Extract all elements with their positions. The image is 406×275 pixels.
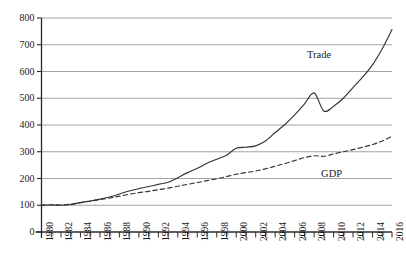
- x-tick-label: 2008: [318, 222, 328, 241]
- x-tick-label: 2002: [260, 222, 270, 241]
- y-tick-label: 600: [20, 67, 35, 77]
- x-tick-label: 1998: [221, 222, 231, 241]
- x-tick-label: 1988: [123, 222, 133, 241]
- x-tick-label: 1994: [182, 222, 192, 241]
- series-label-trade: Trade: [307, 49, 331, 60]
- y-tick-label: 200: [20, 174, 35, 184]
- x-tick-label: 2010: [338, 222, 348, 241]
- x-tick-label: 2000: [240, 222, 250, 241]
- series-label-gdp: GDP: [321, 168, 342, 179]
- y-tick-label: 800: [20, 13, 35, 23]
- y-tick-label: 0: [30, 227, 35, 237]
- y-tick-label: 400: [20, 120, 35, 130]
- x-tick-label: 1996: [201, 222, 211, 241]
- x-tick-label: 2014: [377, 222, 387, 241]
- x-tick-label: 1980: [46, 222, 56, 241]
- x-tick-label: 2004: [279, 222, 289, 241]
- chart-container: 0100200300400500600700800 19801982198419…: [0, 0, 406, 275]
- x-tick-label: 1990: [143, 222, 153, 241]
- y-tick-label: 300: [20, 147, 35, 157]
- y-axis-ticks: [37, 18, 42, 232]
- x-tick-label: 2006: [299, 222, 309, 241]
- x-tick-label: 1982: [65, 222, 75, 241]
- x-tick-label: 2012: [357, 222, 367, 241]
- y-tick-label: 500: [20, 93, 35, 103]
- x-tick-label: 1986: [104, 222, 114, 241]
- y-tick-label: 700: [20, 40, 35, 50]
- y-tick-label: 100: [20, 200, 35, 210]
- x-tick-label: 1992: [162, 222, 172, 241]
- x-tick-label: 2016: [396, 222, 406, 241]
- x-tick-label: 1984: [84, 222, 94, 241]
